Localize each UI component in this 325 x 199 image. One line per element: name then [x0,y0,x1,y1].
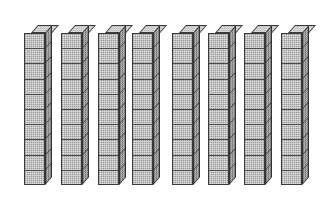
unit-cube [133,34,152,49]
unit-cube [25,34,44,49]
ten-rod [208,25,236,185]
ten-rod [61,25,89,185]
ten-rod [172,25,200,185]
unit-cube [245,171,264,186]
unit-cube [133,156,152,171]
unit-cube [173,64,192,79]
unit-cube [173,49,192,64]
unit-cube [282,49,301,64]
unit-cube [282,95,301,110]
unit-cube [62,140,81,155]
unit-cube-side [83,164,88,185]
unit-cube [282,34,301,49]
cube-front-face [98,33,119,185]
unit-cube [62,156,81,171]
unit-cube [62,110,81,125]
unit-cube [62,125,81,140]
unit-cube-side [120,164,125,185]
unit-cube [25,140,44,155]
unit-cube [173,80,192,95]
unit-cube [133,125,152,140]
unit-cube [62,95,81,110]
unit-cube-side [230,164,235,185]
unit-cube [25,156,44,171]
base-ten-blocks-figure [0,0,325,199]
cube-front-face [61,33,82,185]
unit-cube [209,64,228,79]
unit-cube [62,171,81,186]
unit-cube [133,140,152,155]
cube-front-face [244,33,265,185]
unit-cube [99,95,118,110]
cube-front-face [172,33,193,185]
cube-side-face [193,25,200,185]
unit-cube [173,171,192,186]
unit-cube [25,64,44,79]
unit-cube-side [154,164,159,185]
unit-cube [25,110,44,125]
unit-cube [99,64,118,79]
ten-rod [132,25,160,185]
cube-front-face [132,33,153,185]
unit-cube [245,95,264,110]
unit-cube [245,64,264,79]
unit-cube [25,49,44,64]
unit-cube [25,171,44,186]
unit-cube [173,140,192,155]
unit-cube [99,140,118,155]
unit-cube [133,110,152,125]
unit-cube [209,34,228,49]
unit-cube [209,171,228,186]
unit-cube [99,110,118,125]
unit-cube [133,171,152,186]
unit-cube [133,49,152,64]
cube-side-face [229,25,236,185]
ten-rod [24,25,52,185]
unit-cube [209,156,228,171]
unit-cube [245,156,264,171]
cube-side-face [265,25,272,185]
unit-cube [245,49,264,64]
unit-cube [133,95,152,110]
cube-front-face [281,33,302,185]
unit-cube [282,80,301,95]
unit-cube [209,110,228,125]
cube-side-face [153,25,160,185]
unit-cube [99,49,118,64]
cube-side-face [119,25,126,185]
unit-cube [245,140,264,155]
unit-cube [282,156,301,171]
unit-cube [99,34,118,49]
unit-cube [245,34,264,49]
unit-cube [62,80,81,95]
unit-cube [282,110,301,125]
unit-cube [245,110,264,125]
ten-rod [244,25,272,185]
unit-cube-side [194,164,199,185]
unit-cube [62,34,81,49]
cube-front-face [24,33,45,185]
unit-cube [62,64,81,79]
unit-cube [209,95,228,110]
unit-cube [62,49,81,64]
unit-cube [173,110,192,125]
unit-cube [173,34,192,49]
unit-cube [282,125,301,140]
unit-cube [25,80,44,95]
unit-cube [282,171,301,186]
unit-cube [173,156,192,171]
unit-cube [173,95,192,110]
unit-cube [25,95,44,110]
unit-cube [209,140,228,155]
unit-cube [99,171,118,186]
cube-side-face [45,25,52,185]
ten-rod [281,25,309,185]
unit-cube-side [46,164,51,185]
unit-cube [282,140,301,155]
cube-side-face [82,25,89,185]
unit-cube [282,64,301,79]
unit-cube [133,64,152,79]
unit-cube-side [303,164,308,185]
unit-cube [245,80,264,95]
unit-cube [133,80,152,95]
